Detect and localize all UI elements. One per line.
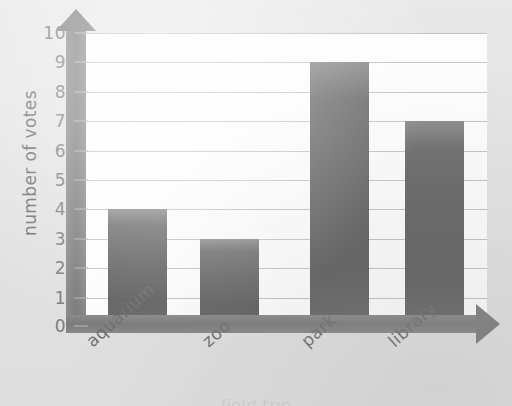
x-axis-arrow-icon (476, 304, 500, 344)
x-axis-title: field trip (0, 396, 512, 406)
gridline (82, 92, 487, 93)
bar-chart: 10 9 8 7 6 5 4 3 2 1 0 number of votes a… (0, 0, 512, 406)
bar-zoo (200, 239, 259, 327)
y-tick-mark (74, 297, 88, 298)
bar-park (310, 62, 369, 327)
y-axis-title: number of votes (20, 63, 40, 263)
y-tick-mark (74, 238, 88, 239)
bar-library (405, 121, 464, 327)
y-tick-label-10: 10 (32, 23, 66, 43)
y-tick-mark (74, 62, 88, 63)
y-axis-line (66, 26, 86, 331)
gridline (82, 62, 487, 63)
y-tick-mark (74, 33, 88, 34)
y-tick-mark (74, 121, 88, 122)
y-tick-mark (74, 150, 88, 151)
y-tick-mark (74, 268, 88, 269)
y-tick-label-0: 0 (32, 316, 66, 336)
y-tick-label-1: 1 (32, 288, 66, 308)
y-tick-mark (74, 91, 88, 92)
y-tick-mark (74, 209, 88, 210)
y-tick-mark (74, 180, 88, 181)
y-tick-mark (74, 326, 88, 327)
gridline (82, 33, 487, 34)
